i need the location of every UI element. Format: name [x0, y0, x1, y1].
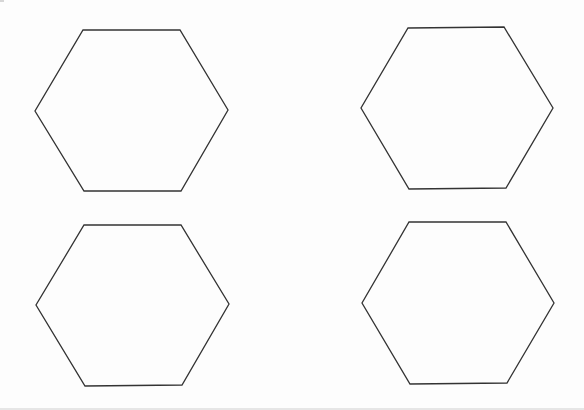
hexagon-bottom-right	[362, 222, 554, 384]
hexagon-bottom-left	[36, 225, 229, 386]
hexagon-top-right	[361, 27, 553, 189]
hexagon-grid	[0, 0, 584, 410]
drawing-canvas	[0, 0, 584, 410]
hexagon-top-left	[35, 30, 228, 191]
